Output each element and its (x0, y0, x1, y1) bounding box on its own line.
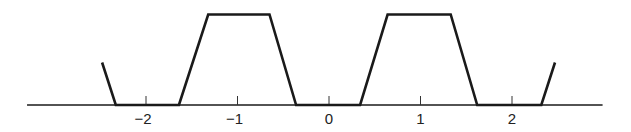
waveform-line (102, 15, 555, 106)
x-axis-tick-labels: −2−1012 (134, 110, 516, 127)
x-tick-label: −1 (226, 110, 243, 127)
trapezoid-waveform-chart: −2−1012 (0, 0, 631, 132)
x-tick-label: −2 (134, 110, 151, 127)
x-axis-ticks (146, 96, 512, 105)
x-tick-label: 0 (325, 110, 333, 127)
x-tick-label: 2 (508, 110, 516, 127)
x-tick-label: 1 (416, 110, 424, 127)
